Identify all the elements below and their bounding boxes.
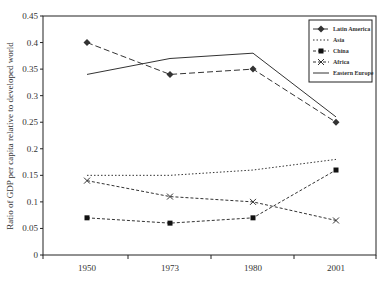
series-asia — [87, 159, 336, 175]
diamond-marker — [250, 66, 257, 73]
legend-label: Asia — [333, 37, 344, 43]
y-tick-label: 0.05 — [22, 223, 38, 233]
series-china — [85, 168, 339, 226]
y-tick-label: 0.2 — [27, 144, 38, 154]
square-marker — [334, 168, 339, 173]
square-marker — [251, 215, 256, 220]
y-tick-label: 0.45 — [22, 11, 38, 21]
legend-item: Latin America — [313, 26, 370, 33]
diamond-marker — [333, 119, 340, 126]
legend-label: Africa — [333, 59, 349, 65]
y-tick-label: 0.15 — [22, 170, 38, 180]
y-tick-label: 0.1 — [27, 197, 38, 207]
y-axis-label: Ratio of GDP per capita relative to deve… — [5, 42, 15, 230]
x-tick-label: 1980 — [244, 263, 263, 273]
line-chart: 00.050.10.150.20.250.30.350.40.451950197… — [0, 0, 385, 281]
x-tick-label: 2001 — [327, 263, 345, 273]
legend: Latin AmericaAsiaChinaAfricaEastern Euro… — [309, 20, 374, 82]
series-latin-america — [84, 39, 340, 126]
square-marker — [168, 221, 173, 226]
square-marker — [319, 49, 324, 54]
series-group — [84, 39, 340, 226]
series-eastern-europe — [87, 53, 336, 117]
x-tick-label: 1950 — [78, 263, 97, 273]
y-tick-label: 0.25 — [22, 117, 38, 127]
x-tick-label: 1973 — [161, 263, 180, 273]
y-tick-label: 0.3 — [27, 91, 39, 101]
legend-label: China — [333, 48, 349, 54]
y-tick-label: 0 — [34, 250, 39, 260]
diamond-marker — [167, 71, 174, 78]
y-tick-label: 0.4 — [27, 38, 39, 48]
legend-label: Eastern Europe — [333, 70, 374, 76]
series-africa — [84, 178, 339, 224]
square-marker — [85, 215, 90, 220]
diamond-marker — [84, 39, 91, 46]
legend-label: Latin America — [333, 26, 370, 32]
y-tick-label: 0.35 — [22, 64, 38, 74]
